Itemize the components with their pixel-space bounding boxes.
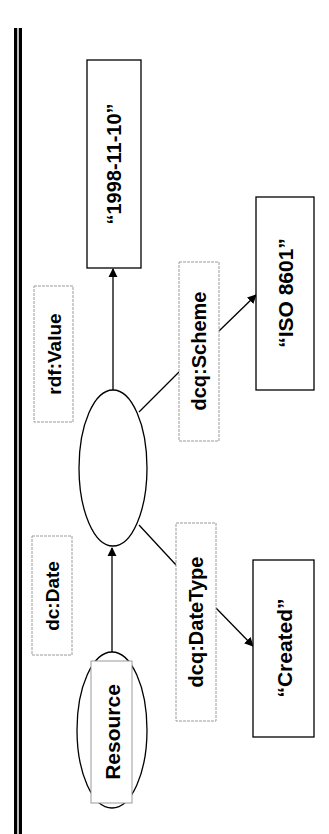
scheme-value-node: “ISO 8601” [256, 197, 314, 390]
resource-node: Resource [77, 652, 147, 808]
dcq-datetype-label: dcq:DateType [185, 557, 207, 688]
datetype-value-node: “Created” [253, 560, 314, 737]
scheme-value-label: “ISO 8601” [274, 238, 297, 348]
edge-dcq-datetype-b [216, 608, 253, 646]
dcq-datetype-label-box: dcq:DateType [176, 523, 216, 721]
edge-dcq-datetype-a [139, 525, 177, 566]
resource-label: Resource [101, 684, 124, 780]
date-value-label: “1998-11-10” [103, 103, 125, 224]
double-rule [14, 28, 22, 834]
date-value-node: “1998-11-10” [87, 60, 141, 268]
edge-dcq-scheme-a [139, 372, 179, 412]
rdf-value-label-box: rdf:Value [34, 286, 73, 422]
edge-dcq-scheme-b [219, 295, 256, 331]
dc-date-label-box: dc:Date [32, 536, 72, 655]
dcq-scheme-label: dcq:Scheme [188, 292, 210, 411]
rdf-value-label: rdf:Value [44, 313, 65, 394]
blank-node [79, 390, 147, 546]
rdf-diagram: Resource “1998-11-10” “ISO 8601” “Create… [0, 0, 329, 834]
dc-date-label: dc:Date [42, 561, 63, 631]
datetype-value-label: “Created” [273, 598, 296, 697]
dcq-scheme-label-box: dcq:Scheme [179, 262, 219, 441]
